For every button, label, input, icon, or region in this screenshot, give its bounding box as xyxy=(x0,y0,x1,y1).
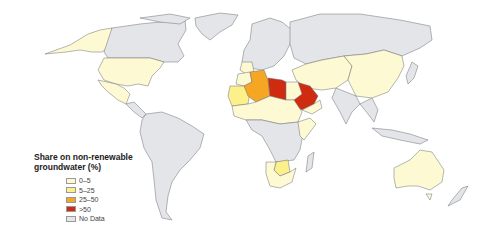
region-new-zealand xyxy=(448,186,468,206)
legend-item-5-25: 5–25 xyxy=(66,186,133,196)
swatch-no-data xyxy=(66,216,76,222)
swatch-over-50 xyxy=(66,206,76,212)
swatch-5-25 xyxy=(66,187,76,193)
legend-title-line1: Share on non-renewable xyxy=(34,152,133,162)
legend-title: Share on non-renewable groundwater (%) xyxy=(34,152,133,172)
region-indonesia xyxy=(372,128,428,144)
region-alaska xyxy=(45,28,112,54)
legend-item-no-data: No Data xyxy=(66,214,133,224)
region-canada-islands xyxy=(140,14,190,24)
region-south-america xyxy=(140,112,204,220)
legend-items: 0–5 5–25 25–50 >50 No Data xyxy=(66,176,133,224)
region-japan xyxy=(406,62,418,84)
region-southeast-asia xyxy=(360,98,378,122)
swatch-0-5 xyxy=(66,178,76,184)
swatch-25-50 xyxy=(66,197,76,203)
legend-label: >50 xyxy=(79,206,91,213)
region-central-america xyxy=(126,102,146,118)
legend-label: No Data xyxy=(79,215,105,222)
region-central-africa xyxy=(246,120,304,162)
legend-title-line2: groundwater (%) xyxy=(34,162,133,172)
region-greenland xyxy=(195,13,238,40)
region-canada xyxy=(104,20,186,62)
region-madagascar xyxy=(306,152,314,172)
region-tasmania xyxy=(426,194,432,200)
legend-item-over-50: >50 xyxy=(66,205,133,215)
legend-label: 5–25 xyxy=(79,187,95,194)
legend-label: 25–50 xyxy=(79,196,98,203)
legend-label: 0–5 xyxy=(79,177,91,184)
region-china xyxy=(344,50,404,98)
region-australia xyxy=(394,150,444,190)
region-usa xyxy=(98,58,164,86)
legend-item-25-50: 25–50 xyxy=(66,195,133,205)
legend-item-0-5: 0–5 xyxy=(66,176,133,186)
region-east-africa xyxy=(298,118,316,140)
legend: Share on non-renewable groundwater (%) 0… xyxy=(34,152,133,224)
